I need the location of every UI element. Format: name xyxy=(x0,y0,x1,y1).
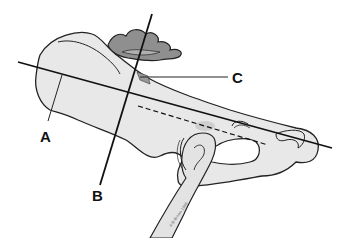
acetabulum-shading xyxy=(195,121,215,131)
label-b: B xyxy=(92,187,103,204)
label-a: A xyxy=(40,128,51,145)
pelvis-diagram xyxy=(0,0,342,238)
label-c: C xyxy=(232,69,243,86)
